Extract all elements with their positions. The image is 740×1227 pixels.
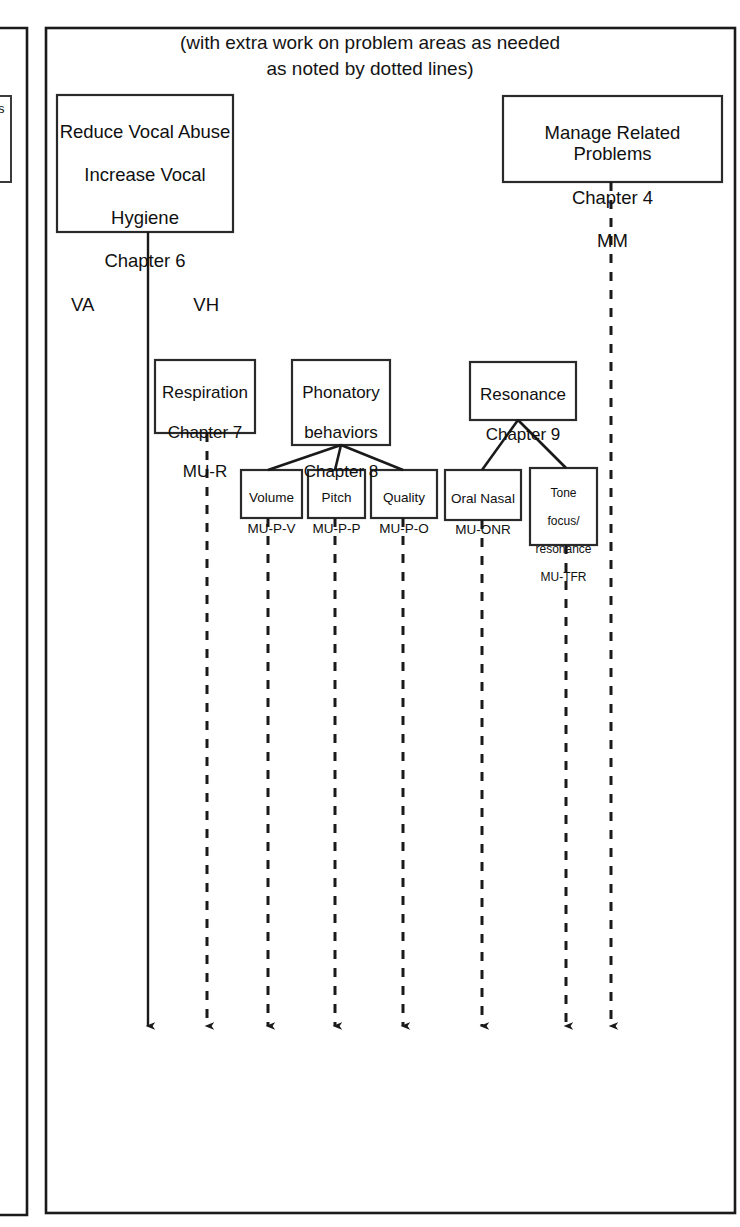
header-note: (with extra work on problem areas as nee…	[130, 30, 610, 81]
box-manage-related-problems	[503, 96, 722, 182]
box-phonatory-behaviors	[292, 360, 390, 445]
clipped-left-box-text: s	[0, 101, 10, 116]
connector-phonatory-volume	[268, 445, 341, 470]
box-quality	[371, 470, 437, 518]
box-volume	[241, 470, 302, 518]
flowchart-diagram: (with extra work on problem areas as nee…	[0, 0, 740, 1227]
connector-phonatory-quality	[341, 445, 403, 470]
box-resonance	[470, 362, 576, 420]
connector-phonatory-pitch	[335, 445, 341, 470]
box-oral-nasal	[445, 470, 521, 520]
box-tone-focus-resonance	[530, 468, 597, 545]
clipped-left-panel-frame	[0, 28, 27, 1215]
connector-resonance-oral-nasal	[482, 420, 518, 470]
box-pitch	[308, 470, 365, 518]
dashed-arrow-group	[207, 182, 611, 1026]
connector-resonance-tone-focus	[518, 420, 566, 468]
box-reduce-vocal-abuse	[57, 95, 233, 232]
diagram-canvas	[0, 0, 740, 1227]
box-respiration	[155, 360, 255, 433]
